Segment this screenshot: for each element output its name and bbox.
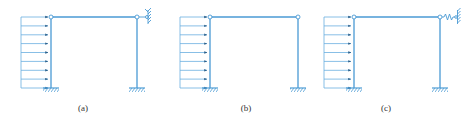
hinge-icon <box>208 15 212 19</box>
fixed-support-left-c <box>346 88 362 92</box>
panel-label-a: (a) <box>78 103 88 113</box>
hinge-icon <box>49 15 53 19</box>
fixed-support-right-b <box>290 88 306 92</box>
fixed-support-left-b <box>202 88 218 92</box>
distributed-load-c <box>324 17 351 88</box>
spring-support-icon <box>442 8 461 24</box>
fixed-support-right-a <box>129 88 145 92</box>
pin-support-right-a <box>139 8 151 24</box>
frame-a <box>51 17 137 88</box>
hinge-icon <box>438 15 442 19</box>
panel-c <box>324 8 461 92</box>
hinge-icon <box>352 15 356 19</box>
distributed-load-a <box>21 17 48 88</box>
fixed-support-left-a <box>43 88 59 92</box>
panel-label-b: (b) <box>241 103 252 113</box>
panel-b <box>180 15 306 92</box>
diagram-canvas <box>0 0 474 123</box>
distributed-load-b <box>180 17 207 88</box>
hinge-icon <box>135 15 139 19</box>
panel-a <box>21 8 151 92</box>
frame-b <box>210 17 298 88</box>
panel-label-c: (c) <box>381 103 391 113</box>
hinge-icon <box>296 15 300 19</box>
fixed-support-right-c <box>432 88 448 92</box>
frame-c <box>354 17 440 88</box>
